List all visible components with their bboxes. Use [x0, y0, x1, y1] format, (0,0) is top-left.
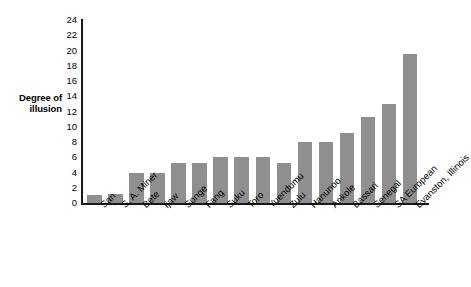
y-axis-tick-label: 16 [56, 76, 77, 86]
y-axis-tick-label: 10 [56, 122, 77, 132]
y-axis-tick-label: 8 [56, 137, 77, 147]
plot-area [81, 20, 429, 203]
y-axis-title-line: Degree of [2, 92, 62, 103]
y-axis-tick-labels: 242220181614121086420 [56, 14, 77, 206]
y-axis-title: Degree ofillusion [2, 92, 62, 114]
y-axis-tick-label: 14 [56, 91, 77, 101]
y-axis-tick-label: 6 [56, 152, 77, 162]
y-axis-tick-label: 0 [56, 198, 77, 208]
y-axis-tick-label: 12 [56, 107, 77, 117]
y-axis-tick-label: 22 [56, 30, 77, 40]
y-axis-tick-label: 20 [56, 46, 77, 56]
y-axis-tick-label: 18 [56, 61, 77, 71]
y-axis-tick-label: 24 [56, 15, 77, 25]
y-axis-tick-label: 4 [56, 168, 77, 178]
y-axis-title-line: illusion [2, 103, 62, 114]
x-axis-tick-labels: SanS. A. MinerBeteIjawSongeFangSukuToroY… [81, 205, 433, 287]
y-axis-tick-label: 2 [56, 183, 77, 193]
